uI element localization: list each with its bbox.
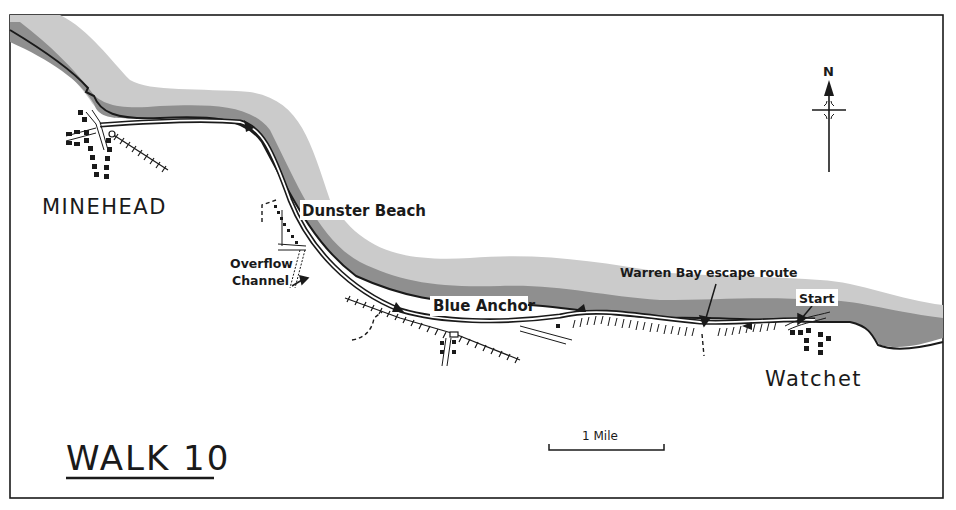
label-channel: Channel: [232, 273, 289, 288]
scale-label: 1 Mile: [582, 429, 618, 443]
label-watchet: Watchet: [765, 367, 862, 391]
map-title: WALK 10: [66, 438, 230, 478]
compass-label: N: [823, 64, 834, 79]
label-dunster-beach: Dunster Beach: [302, 202, 426, 220]
label-warren-bay: Warren Bay escape route: [620, 265, 798, 280]
label-start: Start: [799, 291, 835, 306]
walk-map: N MINEHEAD Dunster Beach Overflow Channe…: [0, 0, 956, 510]
label-blue-anchor: Blue Anchor: [433, 297, 536, 315]
label-minehead: MINEHEAD: [42, 195, 167, 219]
label-overflow: Overflow: [230, 256, 293, 271]
